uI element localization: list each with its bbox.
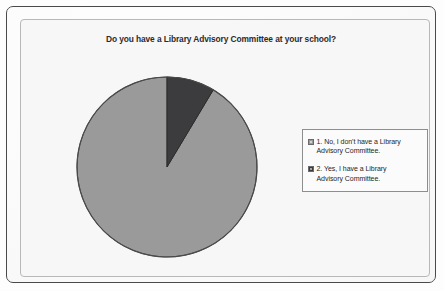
legend-swatch-icon: [308, 139, 314, 145]
chart-title: Do you have a Library Advisory Committee…: [7, 34, 435, 45]
legend-item-label-line2: Advisory Committee.: [317, 175, 381, 182]
pie-chart: [75, 75, 259, 259]
legend-item-label-line1: 2. Yes, I have a Library: [317, 165, 387, 172]
legend-swatch-icon: [308, 166, 314, 172]
legend-item-label-line2: Advisory Committee.: [317, 147, 381, 154]
pie-chart-svg: [75, 75, 259, 259]
legend-item-label: 2. Yes, I have a LibraryAdvisory Committ…: [317, 164, 387, 182]
chart-outer-frame: Do you have a Library Advisory Committee…: [6, 6, 436, 283]
legend-item[interactable]: 1. No, I don't have a LibraryAdvisory Co…: [308, 137, 422, 155]
legend-item-label-line1: 1. No, I don't have a Library: [317, 138, 401, 145]
pie-slice-group: [77, 77, 257, 257]
legend-item[interactable]: 2. Yes, I have a LibraryAdvisory Committ…: [308, 164, 422, 182]
chart-legend: 1. No, I don't have a LibraryAdvisory Co…: [302, 129, 428, 192]
chart-screenshot: Do you have a Library Advisory Committee…: [0, 0, 444, 291]
legend-item-label: 1. No, I don't have a LibraryAdvisory Co…: [317, 137, 401, 155]
